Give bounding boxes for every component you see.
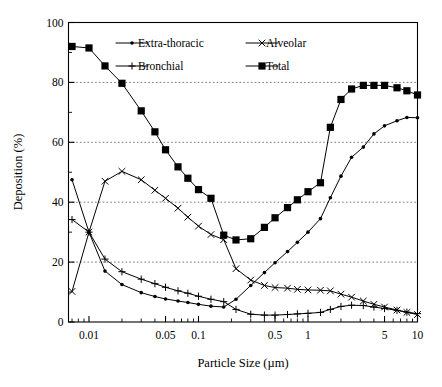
data-point-marker	[174, 163, 181, 170]
legend-label: Bronchial	[138, 60, 183, 72]
data-point-marker	[329, 196, 333, 200]
data-point-marker	[393, 84, 400, 91]
x-tick-label-0.05: 0.05	[155, 329, 175, 341]
data-point-marker	[209, 304, 213, 308]
data-point-marker	[138, 107, 145, 114]
data-point-marker	[370, 82, 377, 89]
data-point-marker	[383, 124, 387, 128]
x-tick-label-0.01: 0.01	[79, 329, 99, 341]
x-tick-label-0.1: 0.1	[191, 329, 206, 341]
data-point-marker	[271, 214, 278, 221]
data-point-marker	[103, 269, 107, 273]
data-point-marker	[319, 217, 323, 221]
data-point-marker	[220, 232, 227, 239]
y-tick-label-80: 80	[52, 76, 64, 88]
data-point-marker	[247, 235, 254, 242]
data-point-marker	[151, 128, 158, 135]
data-point-marker	[249, 284, 253, 288]
data-point-marker	[261, 224, 268, 231]
data-point-marker	[337, 96, 344, 103]
data-point-marker	[362, 145, 366, 149]
data-point-marker	[222, 305, 226, 309]
data-point-marker	[348, 85, 355, 92]
data-point-marker	[360, 82, 367, 89]
chart-figure: 020406080100 0.010.050.10.51510 Particle…	[0, 0, 442, 387]
data-point-marker	[162, 146, 169, 153]
data-point-marker	[68, 43, 75, 50]
data-point-marker	[286, 250, 290, 254]
data-point-marker	[381, 82, 388, 89]
y-tick-label-60: 60	[52, 136, 64, 148]
data-point-marker	[350, 155, 354, 159]
x-tick-label-10: 10	[412, 329, 424, 341]
data-point-marker	[164, 297, 168, 301]
data-point-marker	[395, 119, 399, 123]
data-point-marker	[405, 116, 409, 120]
data-point-marker	[186, 301, 190, 305]
data-point-marker	[139, 291, 143, 295]
data-point-marker	[372, 132, 376, 136]
data-point-marker	[101, 62, 108, 69]
x-tick-label-1: 1	[305, 329, 311, 341]
y-tick-label-0: 0	[58, 316, 64, 328]
y-axis-title: Deposition (%)	[11, 134, 25, 211]
data-point-marker	[153, 295, 157, 299]
data-point-marker	[339, 174, 343, 178]
data-point-marker	[85, 44, 92, 51]
y-tick-label-100: 100	[46, 17, 64, 29]
x-tick-label-0.5: 0.5	[268, 329, 283, 341]
data-point-marker	[130, 41, 134, 45]
data-point-marker	[327, 124, 334, 131]
data-point-marker	[263, 271, 267, 275]
deposition-vs-particle-size-chart: 020406080100 0.010.050.10.51510 Particle…	[0, 0, 442, 387]
data-point-marker	[296, 241, 300, 245]
data-point-marker	[120, 283, 124, 287]
data-point-marker	[284, 204, 291, 211]
data-point-marker	[306, 230, 310, 234]
y-tick-label-40: 40	[52, 196, 64, 208]
x-axis-title: Particle Size (µm)	[197, 356, 288, 370]
data-point-marker	[118, 80, 125, 87]
data-point-marker	[258, 62, 265, 69]
data-point-marker	[294, 196, 301, 203]
chart-background	[0, 0, 442, 387]
data-point-marker	[234, 297, 238, 301]
x-tick-label-5: 5	[382, 329, 388, 341]
legend-label: Alveolar	[266, 37, 306, 49]
legend-label: Extra-thoracic	[138, 37, 204, 49]
data-point-marker	[232, 236, 239, 243]
data-point-marker	[317, 179, 324, 186]
data-point-marker	[403, 87, 410, 94]
data-point-marker	[176, 299, 180, 303]
data-point-marker	[70, 178, 74, 182]
data-point-marker	[195, 186, 202, 193]
legend-label: Total	[266, 60, 289, 72]
data-point-marker	[304, 188, 311, 195]
data-point-marker	[207, 195, 214, 202]
data-point-marker	[184, 175, 191, 182]
y-tick-label-20: 20	[52, 256, 64, 268]
data-point-marker	[197, 303, 201, 307]
data-point-marker	[273, 261, 277, 265]
